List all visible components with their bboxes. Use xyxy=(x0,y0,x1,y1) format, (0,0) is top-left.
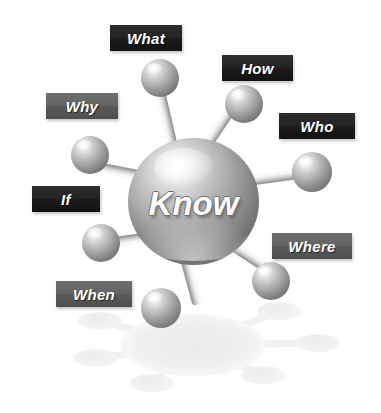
node-label-when[interactable]: When xyxy=(56,281,132,307)
reflection-node xyxy=(296,334,340,352)
node-label-where[interactable]: Where xyxy=(272,233,352,259)
center-node-label: Know xyxy=(128,138,259,265)
node-label-what[interactable]: What xyxy=(110,25,182,51)
node-sphere-why[interactable] xyxy=(71,136,109,174)
node-label-how[interactable]: How xyxy=(222,55,293,81)
node-sphere-what[interactable] xyxy=(141,59,179,97)
node-label-text: Where xyxy=(288,239,335,254)
reflection-node xyxy=(257,302,301,320)
node-sphere-if[interactable] xyxy=(82,224,120,262)
node-label-text: When xyxy=(73,287,115,302)
node-label-text: Why xyxy=(66,99,99,114)
reflection-node xyxy=(130,374,174,392)
reflection-node xyxy=(241,366,285,384)
node-label-if[interactable]: If xyxy=(32,186,100,212)
node-sphere-who[interactable] xyxy=(292,152,332,192)
node-label-text: How xyxy=(241,61,274,76)
node-label-why[interactable]: Why xyxy=(46,93,118,119)
node-sphere-where[interactable] xyxy=(252,262,290,300)
node-label-text: If xyxy=(61,192,71,207)
node-sphere-how[interactable] xyxy=(225,85,263,123)
node-label-text: What xyxy=(127,31,165,46)
node-label-text: Who xyxy=(300,119,333,134)
diagram-canvas: Know WhatHowWhoWhereWhenIfWhy xyxy=(0,0,381,413)
reflection-node xyxy=(74,349,118,367)
reflection-center xyxy=(121,314,265,376)
reflection-node xyxy=(78,312,122,330)
center-node-know[interactable]: Know xyxy=(128,138,259,265)
node-label-who[interactable]: Who xyxy=(279,113,355,139)
reflection-group xyxy=(74,302,340,392)
node-sphere-when[interactable] xyxy=(141,288,181,328)
